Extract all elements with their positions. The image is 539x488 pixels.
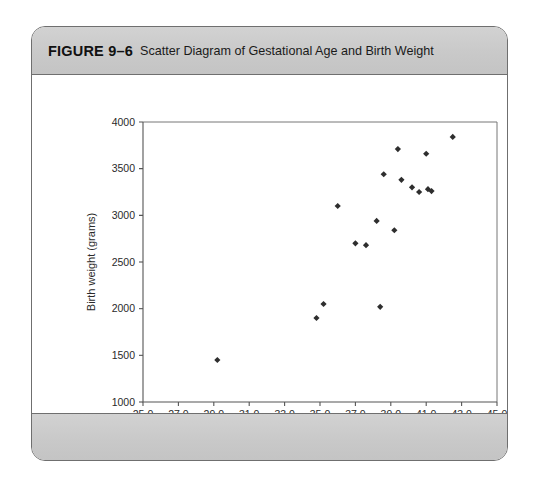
data-point — [377, 304, 383, 310]
figure-plot-area: 100015002000250030003500400025.027.029.0… — [32, 75, 507, 414]
plot-frame — [143, 122, 497, 402]
data-point — [381, 171, 387, 177]
y-tick-label: 2500 — [112, 256, 136, 268]
data-point — [313, 315, 319, 321]
scatter-chart: 100015002000250030003500400025.027.029.0… — [32, 75, 508, 414]
data-point — [398, 177, 404, 183]
data-point — [395, 146, 401, 152]
data-point — [363, 242, 369, 248]
y-tick-label: 4000 — [112, 116, 136, 128]
screenshot-root: FIGURE 9–6 Scatter Diagram of Gestationa… — [0, 0, 539, 488]
y-tick-label: 2000 — [112, 302, 136, 314]
figure-caption: Scatter Diagram of Gestational Age and B… — [140, 44, 434, 58]
y-axis-title: Birth weight (grams) — [85, 213, 97, 311]
data-point — [391, 227, 397, 233]
data-point — [352, 240, 358, 246]
y-tick-label: 1500 — [112, 349, 136, 361]
y-tick-label: 3500 — [112, 162, 136, 174]
figure-number: FIGURE 9–6 — [48, 43, 133, 59]
figure-footer — [32, 413, 507, 460]
data-point — [409, 184, 415, 190]
figure-card: FIGURE 9–6 Scatter Diagram of Gestationa… — [31, 26, 508, 461]
y-tick-label: 3000 — [112, 209, 136, 221]
data-point — [450, 134, 456, 140]
data-point — [320, 301, 326, 307]
data-point — [374, 218, 380, 224]
data-point — [214, 357, 220, 363]
plot-axes — [143, 122, 497, 402]
data-point — [335, 203, 341, 209]
figure-header: FIGURE 9–6 Scatter Diagram of Gestationa… — [32, 27, 507, 75]
data-point — [423, 151, 429, 157]
y-tick-label: 1000 — [112, 396, 136, 408]
data-point — [416, 189, 422, 195]
